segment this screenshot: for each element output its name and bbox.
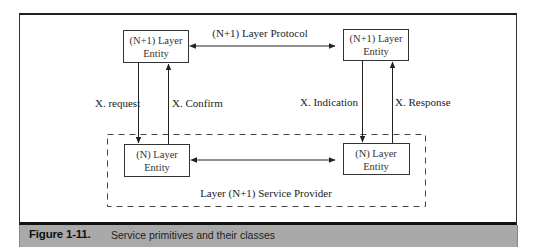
response-label: X. Response [395,96,451,108]
confirm-label: X. Confirm [172,97,223,109]
figure-caption-bar: Figure 1-11. Service primitives and thei… [19,225,518,247]
entity-top-left-line1: (N+1) Layer [130,35,183,47]
entity-bottom-left-line1: (N) Layer [136,149,178,161]
entity-top-right: (N+1) Layer Entity [344,30,409,61]
entity-top-left-line2: Entity [143,48,169,59]
request-label: X. request [95,97,140,109]
service-provider-label: Layer (N+1) Service Provider [200,187,332,200]
arrowhead-left-icon [190,157,197,163]
entity-bottom-right: (N) Layer Entity [344,144,410,175]
entity-top-right-line2: Entity [363,46,389,57]
indication-label: X. Indication [300,96,359,108]
entity-bottom-left-line2: Entity [144,162,170,173]
protocol-label: (N+1) Layer Protocol [212,27,307,40]
entity-bottom-right-line2: Entity [363,161,389,172]
entity-top-right-line1: (N+1) Layer [350,33,403,45]
entity-bottom-left: (N) Layer Entity [125,145,190,177]
entity-bottom-right-line1: (N) Layer [355,148,397,160]
service-primitives-diagram: (N+1) Layer Entity (N+1) Layer Entity (N… [0,0,538,247]
arrowhead-left-icon [189,43,196,49]
figure-caption: Service primitives and their classes [111,229,275,241]
figure-number: Figure 1-11. [29,228,91,240]
entity-top-left: (N+1) Layer Entity [124,31,189,63]
